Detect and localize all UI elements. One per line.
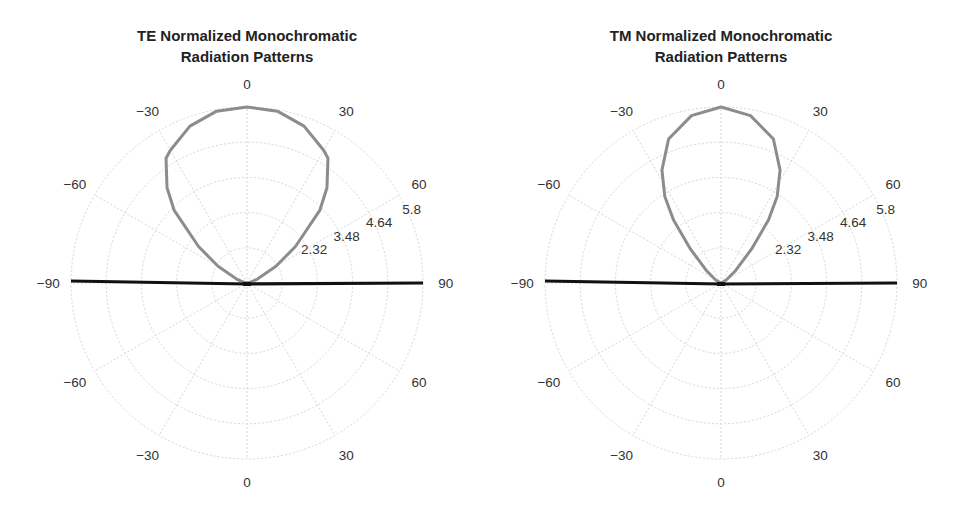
te-polar-plot: 030609060300−30−60−90−60−302.323.484.645… [37,77,453,490]
angular-tick-label: −60 [537,177,560,192]
radial-tick-label: 3.48 [807,229,833,244]
angular-tick-label: 90 [438,276,453,291]
angular-tick-label: 60 [886,375,901,390]
angular-tick-label: −60 [63,375,86,390]
angular-tick-label: 60 [886,177,901,192]
angular-tick-label: 0 [243,475,251,490]
angular-tick-label: −60 [63,177,86,192]
angular-tick-label: 60 [412,177,427,192]
angular-grid-spoke [159,283,247,435]
radial-tick-label: 4.64 [840,215,867,230]
origin-marker [717,282,725,286]
radial-tick-label: 2.32 [775,242,801,257]
angular-tick-label: 30 [339,104,354,119]
angular-tick-label: 0 [717,77,725,92]
angular-grid-spoke [247,283,399,371]
angular-tick-label: 90 [912,276,927,291]
radial-tick-label: 5.8 [876,202,895,217]
radial-tick-label: 4.64 [366,215,393,230]
angular-tick-label: 30 [339,448,354,463]
angular-tick-label: −90 [511,276,534,291]
angular-grid-spoke [95,283,247,371]
radial-tick-label: 3.48 [333,229,359,244]
tm-polar-plot: 030609060300−30−60−90−60−302.323.484.645… [511,77,927,490]
radial-tick-label: 2.32 [301,242,327,257]
angular-grid-spoke [721,131,809,283]
angular-tick-label: −30 [610,104,633,119]
angular-tick-label: −90 [37,276,60,291]
angular-grid-spoke [247,283,335,435]
angular-grid-spoke [569,283,721,371]
angular-tick-label: 60 [412,375,427,390]
radial-tick-label: 5.8 [402,202,421,217]
angular-tick-label: −30 [610,448,633,463]
angular-tick-label: −30 [136,448,159,463]
angular-grid-spoke [633,131,721,283]
angular-tick-label: −60 [537,375,560,390]
angular-grid-spoke [721,195,873,283]
polar-plots: 030609060300−30−60−90−60−302.323.484.645… [0,0,953,513]
angular-tick-label: 0 [717,475,725,490]
angular-grid-spoke [633,283,721,435]
angular-grid-spoke [721,283,873,371]
angular-grid-spoke [569,195,721,283]
angular-tick-label: 30 [813,448,828,463]
angular-tick-label: −30 [136,104,159,119]
angular-tick-label: 0 [243,77,251,92]
angular-grid-spoke [721,283,809,435]
angular-tick-label: 30 [813,104,828,119]
origin-marker [243,282,251,286]
